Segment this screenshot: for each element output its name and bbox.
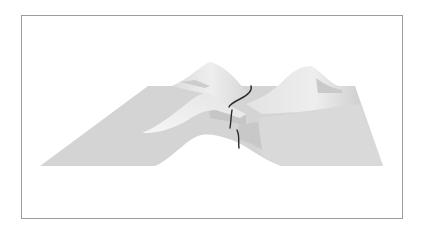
terrain-surface <box>0 0 425 234</box>
figure-description: Two-peaked mountain surface with a saddl… <box>0 0 1 1</box>
